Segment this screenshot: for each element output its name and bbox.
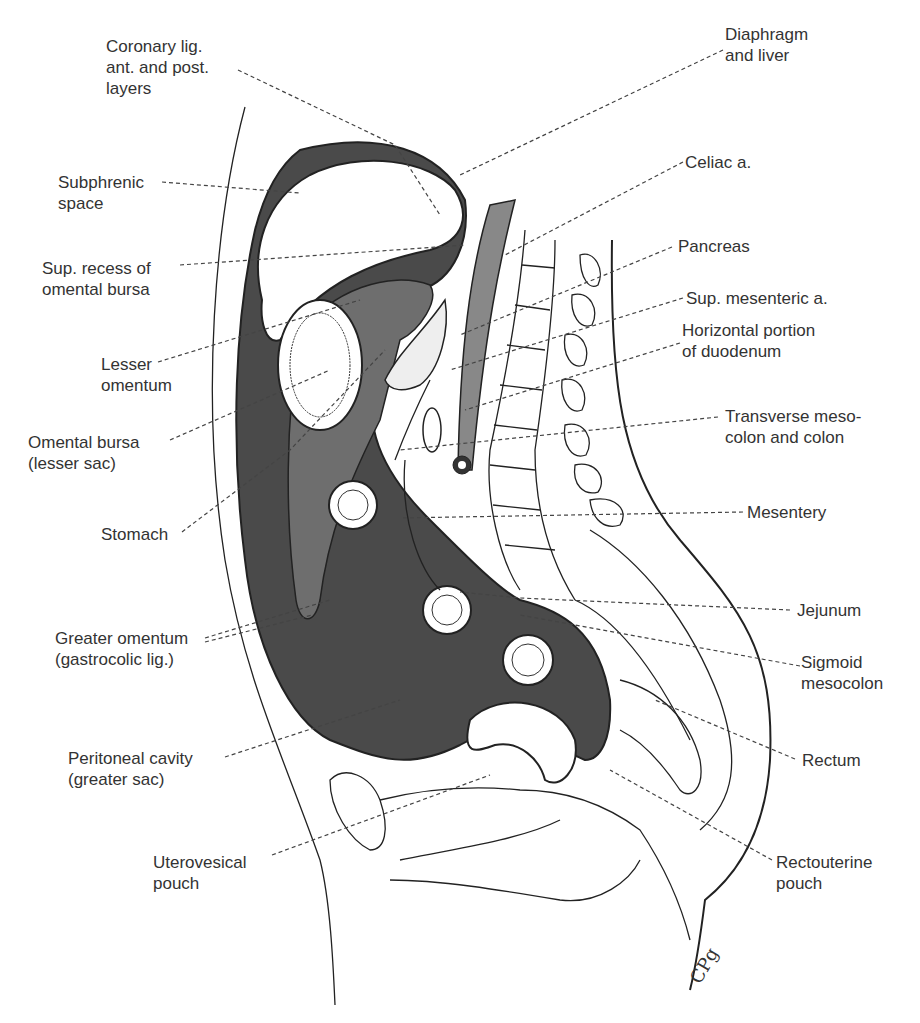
label-rectum: Rectum (802, 750, 861, 771)
label-transverse-mesocolon: Transverse meso- colon and colon (725, 406, 861, 448)
label-jejunum: Jejunum (797, 600, 861, 621)
label-horizontal-duodenum: Horizontal portion of duodenum (682, 320, 815, 362)
label-peritoneal-cavity: Peritoneal cavity (greater sac) (68, 748, 193, 790)
label-coronary-ligament: Coronary lig. ant. and post. layers (106, 36, 209, 99)
label-diaphragm-liver: Diaphragm and liver (725, 24, 808, 66)
label-mesentery: Mesentery (747, 502, 826, 523)
anatomy-figure: CPg Coronary lig. ant. and post. layers … (0, 0, 920, 1023)
label-greater-omentum: Greater omentum (gastrocolic lig.) (55, 628, 188, 670)
label-sigmoid-mesocolon: Sigmoid mesocolon (801, 652, 883, 694)
label-omental-bursa: Omental bursa (lesser sac) (28, 432, 140, 474)
label-lesser-omentum: Lesser omentum (101, 354, 172, 396)
label-celiac-artery: Celiac a. (685, 152, 751, 173)
artist-signature: CPg (685, 944, 722, 987)
bladder (330, 773, 385, 850)
label-subphrenic-space: Subphrenic space (58, 172, 144, 214)
label-sup-mesenteric-artery: Sup. mesenteric a. (686, 288, 828, 309)
label-sup-recess-omental-bursa: Sup. recess of omental bursa (42, 258, 151, 300)
aorta (458, 200, 515, 470)
duodenum (423, 408, 441, 452)
label-uterovesical-pouch: Uterovesical pouch (153, 852, 247, 894)
label-rectouterine-pouch: Rectouterine pouch (776, 852, 872, 894)
label-pancreas: Pancreas (678, 236, 750, 257)
vertebral-column (489, 230, 623, 600)
label-stomach: Stomach (101, 524, 168, 545)
